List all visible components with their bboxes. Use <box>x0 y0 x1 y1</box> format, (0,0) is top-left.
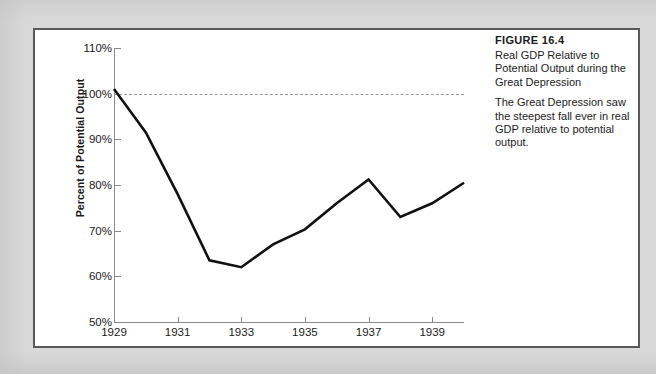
figure-title: Real GDP Relative to Potential Output du… <box>495 49 635 89</box>
y-axis-tick <box>115 322 121 323</box>
x-axis-tick-label: 1935 <box>292 326 318 338</box>
y-axis-title: Percent of Potential Output <box>74 58 86 238</box>
x-axis-tick-label: 1931 <box>165 326 191 338</box>
x-axis-tick-label: 1933 <box>228 326 254 338</box>
figure-caption: FIGURE 16.4 Real GDP Relative to Potenti… <box>495 34 635 150</box>
x-axis-tick-label: 1929 <box>101 326 127 338</box>
y-axis-tick-label: 90% <box>52 133 112 145</box>
y-axis-tick-label: 70% <box>52 225 112 237</box>
gdp-series-line <box>114 48 464 322</box>
figure-description: The Great Depression saw the steepest fa… <box>495 96 635 150</box>
x-axis-line <box>114 322 464 323</box>
y-axis-tick-label: 100% <box>52 88 112 100</box>
y-axis-tick-label: 80% <box>52 179 112 191</box>
x-axis-tick-label: 1939 <box>419 326 445 338</box>
plot-region: 50%60%70%80%90%100%110% 1929193119331935… <box>114 48 464 322</box>
y-axis-tick-label: 60% <box>52 270 112 282</box>
y-axis-tick-label: 110% <box>52 42 112 54</box>
figure-card: Percent of Potential Output 50%60%70%80%… <box>33 28 640 348</box>
x-axis-tick-label: 1937 <box>356 326 382 338</box>
figure-number-label: FIGURE 16.4 <box>495 34 635 46</box>
chart-area: Percent of Potential Output 50%60%70%80%… <box>35 30 487 346</box>
page-background: Percent of Potential Output 50%60%70%80%… <box>0 0 656 374</box>
